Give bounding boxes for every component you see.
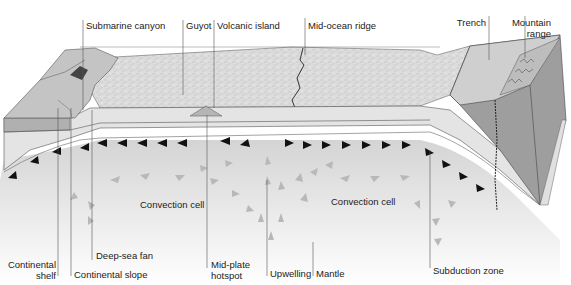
label-convection-cell-left: Convection cell [140,200,204,210]
plate-tectonics-diagram: Submarine canyon Guyot Volcanic island M… [0,0,571,285]
label-convection-cell-right: Convection cell [331,197,395,207]
label-subduction-zone: Subduction zone [433,266,504,276]
label-mountain-range-line2: range [495,29,551,39]
label-upwelling: Upwelling [270,269,311,279]
label-mid-plate-hotspot-line2: hotspot [211,271,242,281]
label-mantle: Mantle [316,269,345,279]
label-mid-plate-hotspot-line1: Mid-plate [211,260,250,270]
label-mountain-range-line1: Mountain [495,18,551,28]
label-mid-ocean-ridge: Mid-ocean ridge [308,21,376,31]
label-submarine-canyon: Submarine canyon [86,21,165,31]
label-continental-slope: Continental slope [74,270,147,280]
label-continental-shelf-line1: Continental [0,260,56,270]
ocean-floor [90,46,470,108]
label-trench: Trench [452,18,486,28]
label-continental-shelf-line2: shelf [0,271,56,281]
label-guyot: Guyot [186,21,211,31]
label-volcanic-island: Volcanic island [217,21,280,31]
mantle-region [0,140,560,285]
label-deep-sea-fan: Deep-sea fan [96,251,153,261]
diagram-artwork [0,0,571,285]
